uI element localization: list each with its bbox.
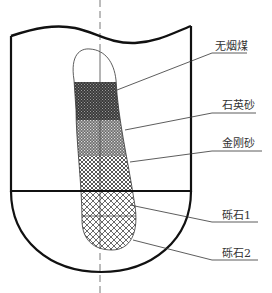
label-emery: 金刚砂 [222, 138, 255, 150]
label-gravel-1: 砾石1 [222, 210, 251, 222]
container-top-edge [11, 26, 191, 43]
leader-emery [130, 151, 262, 162]
leader-anthracite [117, 53, 247, 90]
label-gravel-2: 砾石2 [222, 248, 251, 260]
label-anthracite: 无烟煤 [215, 41, 248, 53]
label-quartz-sand: 石英砂 [222, 100, 255, 112]
